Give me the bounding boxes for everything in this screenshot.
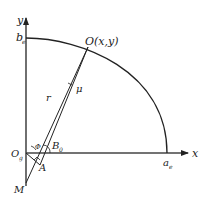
line-O-M [26,47,88,183]
B-0-subscript: 0 [59,146,63,153]
y-axis-label: y [16,14,24,27]
A-label: A [38,162,46,173]
x-axis-label: x [192,147,199,160]
r-label: r [46,92,52,103]
O-g-label: O [11,148,19,159]
O-g-subscript: g [19,154,23,162]
b-e-subscript: e [22,38,26,45]
mu-label: μ [76,83,83,94]
point-O-label: O(x,y) [85,35,119,48]
M-label: M [13,184,25,195]
line-O-A [40,47,88,165]
ellipse-geometry-diagram: y x b e a e O(x,y) r μ O g B 0 Φ A M [0,0,208,204]
a-e-subscript: e [169,163,173,170]
line-Og-A [26,153,40,165]
phi-label: Φ [35,143,41,151]
